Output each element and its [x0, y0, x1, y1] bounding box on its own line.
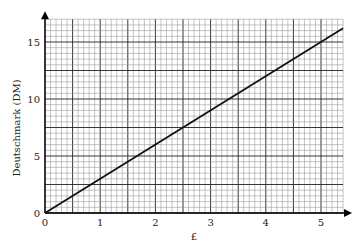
y-tick-label: 0	[34, 208, 40, 219]
x-tick-label: 1	[97, 217, 103, 228]
y-tick-label: 5	[34, 151, 40, 162]
y-tick-label: 15	[27, 37, 40, 48]
x-tick-label: 5	[318, 217, 324, 228]
x-tick-label: 2	[152, 217, 158, 228]
x-axis-label: £	[191, 231, 197, 242]
x-axis-arrow-icon	[344, 209, 352, 217]
y-axis-arrow-icon	[41, 11, 49, 19]
y-tick-label: 10	[27, 94, 40, 105]
conversion-chart: 012345051015 £ Deutschmark (DM)	[0, 0, 363, 247]
x-tick-label: 4	[263, 217, 269, 228]
x-tick-label: 3	[207, 217, 213, 228]
y-axis-label: Deutschmark (DM)	[11, 79, 22, 176]
x-tick-label: 0	[42, 217, 48, 228]
grid	[45, 19, 343, 213]
